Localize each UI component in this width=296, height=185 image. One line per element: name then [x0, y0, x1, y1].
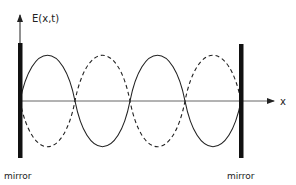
left-mirror	[18, 43, 23, 158]
standing-wave-diagram: E(x,t) x mirror mirror	[0, 0, 296, 185]
e-axis-label: E(x,t)	[32, 13, 59, 24]
right-mirror	[239, 44, 244, 158]
right-mirror-label: mirror	[227, 171, 255, 181]
x-axis-label: x	[280, 96, 286, 107]
left-mirror-label: mirror	[4, 171, 32, 181]
